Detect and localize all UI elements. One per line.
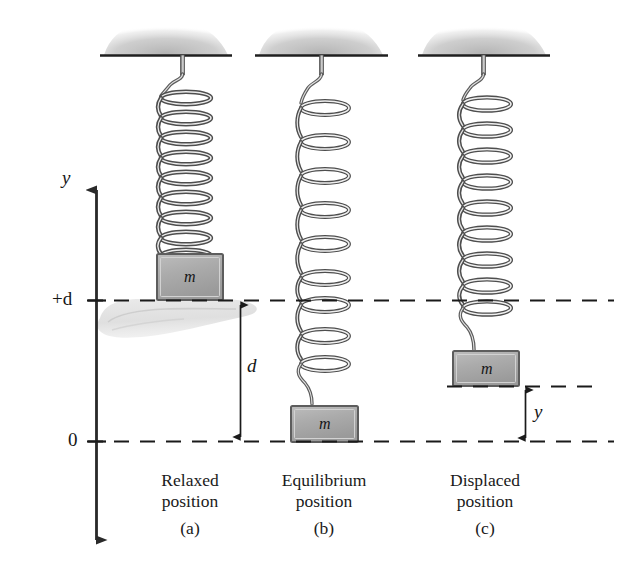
spring-hanger-b bbox=[320, 55, 324, 75]
panel-a-spring bbox=[158, 55, 211, 284]
spring-coils-b bbox=[297, 101, 349, 371]
ceiling-c bbox=[418, 20, 550, 56]
tick-label-zero: 0 bbox=[68, 429, 78, 451]
panel-c-caption-line1: Displaced bbox=[390, 470, 580, 491]
dimension-label-y: y bbox=[534, 401, 542, 423]
ceiling-supports bbox=[100, 20, 550, 56]
ceiling-hatch-c bbox=[422, 20, 546, 56]
mass-label-c: m bbox=[481, 360, 493, 379]
ceiling-hatch-a bbox=[104, 20, 228, 56]
spring-hanger-c bbox=[482, 55, 486, 75]
dimension-label-d: d bbox=[247, 355, 257, 377]
spring-coils-a bbox=[158, 92, 211, 262]
panel-b-spring bbox=[297, 55, 349, 404]
figure-container: y +d 0 d y m m m Relaxed position (a) Eq… bbox=[0, 0, 620, 572]
panel-caption-c: Displaced position (c) bbox=[390, 470, 580, 539]
spring-hanger-a bbox=[181, 55, 185, 75]
panel-c-letter: (c) bbox=[390, 518, 580, 539]
ceiling-hatch-b bbox=[259, 20, 383, 56]
spring-lead-top-b bbox=[301, 74, 322, 103]
hand-supporting-block-a bbox=[97, 299, 256, 338]
ceiling-a bbox=[100, 20, 232, 56]
panel-c-caption-line2: position bbox=[390, 491, 580, 512]
ceiling-b bbox=[255, 20, 388, 56]
y-axis-label: y bbox=[62, 167, 70, 189]
panel-c-spring bbox=[459, 55, 511, 350]
mass-label-a: m bbox=[184, 268, 196, 287]
mass-label-b: m bbox=[319, 415, 331, 434]
spring-coils-c bbox=[459, 97, 511, 314]
tick-label-plus-d: +d bbox=[52, 288, 72, 310]
